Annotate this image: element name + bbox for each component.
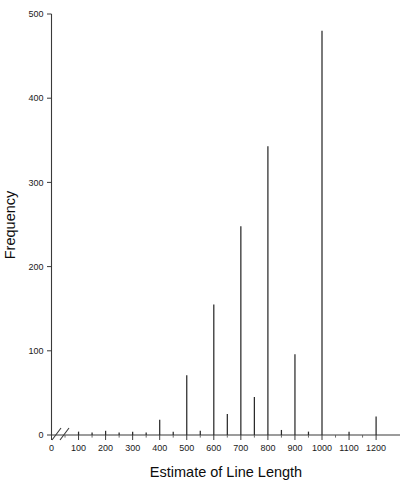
x-tick-label: 0 xyxy=(49,443,54,453)
x-axis-tick-labels: 0100200300400500600700800900100011001200 xyxy=(49,443,386,453)
x-tick-label: 1200 xyxy=(366,443,386,453)
x-tick-label: 1000 xyxy=(312,443,332,453)
y-tick-label: 400 xyxy=(28,93,43,103)
y-tick-label: 0 xyxy=(38,430,43,440)
x-tick-label: 800 xyxy=(260,443,275,453)
x-tick-label: 300 xyxy=(125,443,140,453)
y-axis-tick-labels: 0100200300400500 xyxy=(28,9,43,440)
x-tick-label: 500 xyxy=(179,443,194,453)
y-axis-ticks xyxy=(47,14,52,435)
y-tick-label: 100 xyxy=(28,346,43,356)
y-tick-label: 300 xyxy=(28,178,43,188)
axis-break-marks xyxy=(52,428,69,440)
x-tick-label: 200 xyxy=(98,443,113,453)
chart-canvas: 0100200300400500 01002003004005006007008… xyxy=(0,0,412,489)
histogram-chart: 0100200300400500 01002003004005006007008… xyxy=(0,0,412,489)
y-tick-label: 200 xyxy=(28,262,43,272)
histogram-bars xyxy=(79,31,377,435)
x-axis-title: Estimate of Line Length xyxy=(150,464,302,480)
x-axis-ticks xyxy=(52,435,377,440)
x-tick-label: 900 xyxy=(287,443,302,453)
y-axis-title: Frequency xyxy=(2,190,18,259)
y-tick-label: 500 xyxy=(28,9,43,19)
x-tick-label: 700 xyxy=(233,443,248,453)
x-tick-label: 400 xyxy=(152,443,167,453)
x-tick-label: 600 xyxy=(206,443,221,453)
x-tick-label: 100 xyxy=(71,443,86,453)
x-tick-label: 1100 xyxy=(339,443,358,453)
